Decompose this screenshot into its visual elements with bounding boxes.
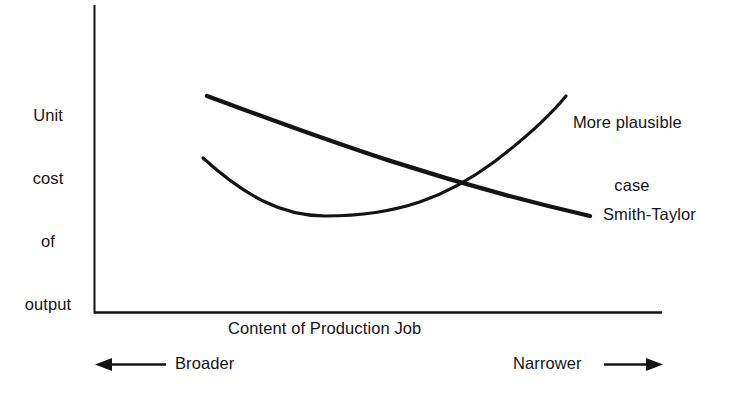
y-axis-label: Unit cost of output (12, 63, 84, 357)
series-label-more-plausible-line-2: case (573, 175, 691, 196)
y-axis-label-line-4: output (12, 294, 84, 315)
y-axis-label-line-3: of (12, 231, 84, 252)
y-axis-label-line-1: Unit (12, 105, 84, 126)
left-arrow-icon (95, 358, 166, 371)
direction-label-broader: Broader (175, 353, 234, 374)
chart-figure: Unit cost of output Content of Productio… (0, 0, 739, 404)
x-axis-title: Content of Production Job (228, 318, 421, 339)
y-axis-label-line-2: cost (12, 168, 84, 189)
series-label-more-plausible-line-1: More plausible (573, 112, 713, 133)
right-arrow-icon (604, 358, 663, 371)
series-line-smith-taylor (207, 96, 590, 216)
series-label-smith-taylor: Smith-Taylor (603, 204, 696, 225)
direction-label-narrower: Narrower (513, 353, 582, 374)
